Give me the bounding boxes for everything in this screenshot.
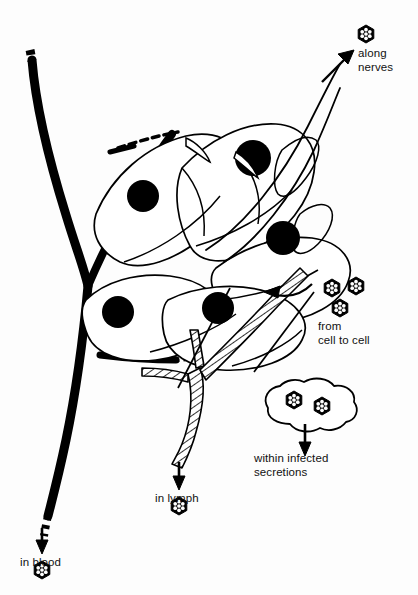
virus-spread-diagram: along nerves from cell to cell within in…	[0, 0, 418, 595]
label-from-cell-to-cell: from cell to cell	[318, 320, 370, 347]
virus-particle-icon	[358, 25, 374, 43]
virus-particle-icon	[314, 397, 330, 415]
virus-particle-icon	[286, 391, 302, 409]
label-within-infected-secretions: within infected secretions	[254, 452, 328, 479]
diagram-canvas	[0, 0, 418, 595]
nucleus	[202, 292, 234, 324]
virus-particle-icon	[324, 279, 340, 297]
virus-particle-icon	[348, 277, 364, 295]
virus-particle-icon	[332, 299, 348, 317]
nucleus	[127, 180, 159, 212]
nucleus	[102, 296, 134, 328]
label-along-nerves: along nerves	[358, 47, 393, 74]
label-in-blood: in blood	[20, 556, 61, 570]
label-in-lymph: in lymph	[155, 492, 199, 506]
